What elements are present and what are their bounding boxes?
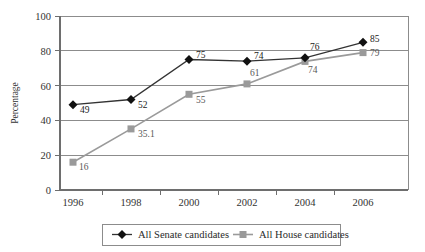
x-tick-label-2002: 2002 [237, 197, 258, 208]
y-tick-label-0: 0 [46, 185, 51, 196]
data-point-house-1996 [70, 159, 77, 166]
x-tick-label-2000: 2000 [179, 197, 200, 208]
data-label-senate-1998: 52 [138, 100, 148, 110]
chart-svg: 100 80 60 40 20 0 Percentage 1996 1998 2… [0, 0, 425, 252]
data-point-house-2000 [186, 91, 193, 98]
legend-label-house: All House candidates [259, 229, 349, 240]
data-point-house-1998 [128, 125, 135, 132]
legend-label-senate: All Senate candidates [138, 229, 229, 240]
data-point-house-2002 [244, 80, 251, 87]
y-tick-label-100: 100 [35, 11, 51, 22]
y-axis-ticks [55, 16, 60, 190]
y-tick-label-20: 20 [41, 150, 52, 161]
data-point-house-2006 [360, 49, 367, 56]
plot-area-background [60, 16, 408, 190]
data-label-senate-2006: 85 [370, 34, 380, 44]
chart-legend: All Senate candidates All House candidat… [102, 224, 349, 245]
x-tick-label-2006: 2006 [353, 197, 374, 208]
y-tick-label-40: 40 [41, 115, 52, 126]
y-tick-label-80: 80 [41, 46, 52, 57]
data-label-senate-2004: 76 [310, 42, 320, 52]
x-tick-label-1996: 1996 [63, 197, 84, 208]
x-axis-ticks [102, 190, 334, 195]
x-tick-label-2004: 2004 [295, 197, 317, 208]
data-label-house-2002: 61 [250, 68, 260, 78]
x-tick-label-1998: 1998 [121, 197, 142, 208]
data-label-house-1996: 16 [79, 162, 89, 172]
data-label-house-2006: 79 [370, 48, 380, 58]
y-axis-title: Percentage [10, 82, 20, 124]
data-label-senate-1996: 49 [80, 105, 90, 115]
data-label-house-2000: 55 [196, 95, 206, 105]
data-label-house-1998: 35.1 [138, 129, 155, 139]
line-chart: 100 80 60 40 20 0 Percentage 1996 1998 2… [0, 0, 425, 252]
y-tick-label-60: 60 [41, 81, 52, 92]
data-label-senate-2002: 74 [254, 51, 264, 61]
data-label-house-2004: 74 [308, 65, 318, 75]
data-label-senate-2000: 75 [196, 50, 206, 60]
square-marker-icon [240, 231, 247, 238]
